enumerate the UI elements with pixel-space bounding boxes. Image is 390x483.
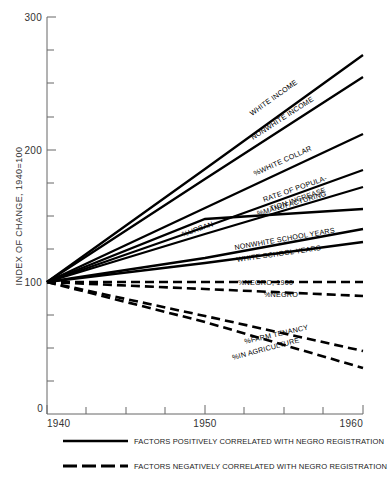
line-chart: 300 200 100 0 INDEX OF CHANGE, 1940=100 … [0, 0, 390, 483]
legend: FACTORS POSITIVELY CORRELATED WITH NEGRO… [63, 437, 387, 471]
series-line-percent-white-collar [47, 134, 363, 282]
y-axis-title: INDEX OF CHANGE, 1940=100 [14, 147, 24, 286]
y-tick-label-100: 100 [24, 277, 42, 288]
chart-container: 300 200 100 0 INDEX OF CHANGE, 1940=100 … [0, 0, 390, 483]
legend-label-negative: FACTORS NEGATIVELY CORRELATED WITH NEGRO… [134, 462, 387, 471]
y-tick-label-200: 200 [24, 145, 42, 156]
x-tick-label-1950: 1950 [193, 418, 217, 429]
series-label-percent-negro: %NEGRO [264, 290, 298, 299]
x-tick-label-1960: 1960 [340, 418, 364, 429]
y-tick-label-300: 300 [24, 12, 42, 23]
y-tick-label-0: 0 [37, 403, 43, 414]
x-tick-label-1940: 1940 [47, 418, 71, 429]
x-axis: 1940 1950 1960 [47, 405, 363, 429]
series-line-percent-farm-tenancy [47, 282, 363, 351]
series-lines [47, 55, 363, 368]
series-label-percent-negro-1900: %NEGRO, 1900 [238, 278, 293, 287]
legend-label-positive: FACTORS POSITIVELY CORRELATED WITH NEGRO… [134, 437, 384, 446]
y-axis: 300 200 100 0 INDEX OF CHANGE, 1940=100 [14, 12, 56, 414]
